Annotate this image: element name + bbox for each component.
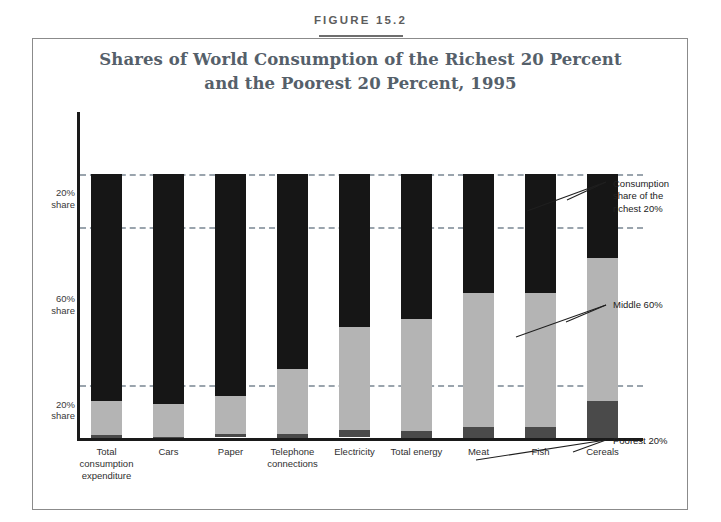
- bar-segment-middle: [587, 258, 618, 401]
- y-axis-label-value: 60%: [56, 293, 75, 304]
- x-axis-label-8: Cereals: [555, 446, 651, 458]
- callout-middle-share: Middle 60%: [613, 299, 693, 311]
- bar-telephone-connections: [277, 112, 308, 438]
- bar-segment-poorest: [215, 434, 246, 437]
- bar-segment-middle: [153, 404, 184, 438]
- bar-total-consumption-expenditure: [91, 112, 122, 438]
- page-title: Shares of World Consumption of the Riche…: [0, 48, 721, 96]
- bar-segment-poorest: [277, 434, 308, 438]
- bar-segment-richest: [525, 174, 556, 293]
- bar-segment-poorest: [401, 431, 432, 438]
- x-axis-label-line: Paper: [218, 446, 243, 457]
- y-axis-label-word: share: [51, 305, 75, 316]
- bar-total-energy: [401, 112, 432, 438]
- bar-segment-poorest: [587, 401, 618, 438]
- bar-segment-middle: [463, 293, 494, 428]
- bar-segment-middle: [215, 396, 246, 434]
- bar-segment-middle: [277, 369, 308, 434]
- figure-number: FIGURE 15.2: [0, 14, 721, 26]
- bar-cars: [153, 112, 184, 438]
- bar-segment-richest: [91, 174, 122, 401]
- y-axis-label-2: 20%share: [35, 399, 75, 423]
- x-axis-label-line: Meat: [468, 446, 489, 457]
- bar-segment-richest: [339, 174, 370, 327]
- bar-segment-middle: [525, 293, 556, 428]
- x-axis-label-line: connections: [267, 458, 318, 469]
- bar-segment-richest: [463, 174, 494, 293]
- bar-segment-poorest: [153, 437, 184, 438]
- title-divider-rule: [319, 35, 403, 37]
- x-axis-label-line: consumption: [80, 458, 134, 469]
- title-line-2: and the Poorest 20 Percent, 1995: [0, 72, 721, 96]
- chart-plot-area: 20%share60%share20%share Totalconsumptio…: [43, 112, 643, 472]
- bar-segment-poorest: [339, 430, 370, 437]
- y-axis-label-1: 60%share: [35, 293, 75, 317]
- bar-segment-richest: [401, 174, 432, 319]
- callout-poorest-share: Poorest 20%: [613, 435, 693, 447]
- title-line-1: Shares of World Consumption of the Riche…: [0, 48, 721, 72]
- bar-segment-poorest: [525, 427, 556, 438]
- bar-segment-richest: [277, 174, 308, 369]
- y-axis-label-value: 20%: [56, 399, 75, 410]
- x-axis-label-line: expenditure: [82, 470, 132, 481]
- bar-segment-richest: [215, 174, 246, 396]
- y-axis-label-value: 20%: [56, 187, 75, 198]
- x-axis-label-line: Fish: [532, 446, 550, 457]
- x-axis-label-line: Cars: [158, 446, 178, 457]
- bar-segment-middle: [401, 319, 432, 431]
- y-axis-line: [77, 112, 80, 440]
- callout-richest-share: Consumption share of the richest 20%: [613, 178, 693, 215]
- x-axis-label-line: Total: [96, 446, 116, 457]
- bar-segment-middle: [91, 401, 122, 435]
- bar-segment-poorest: [463, 427, 494, 438]
- y-axis-label-word: share: [51, 410, 75, 421]
- y-axis-label-word: share: [51, 199, 75, 210]
- bar-segment-richest: [153, 174, 184, 404]
- bar-meat: [463, 112, 494, 438]
- bar-fish: [525, 112, 556, 438]
- bar-electricity: [339, 112, 370, 438]
- x-axis-line: [77, 438, 643, 441]
- bar-cereals: [587, 112, 618, 438]
- x-axis-label-line: Cereals: [586, 446, 619, 457]
- bar-segment-poorest: [91, 435, 122, 438]
- y-axis-label-0: 20%share: [35, 187, 75, 211]
- bar-paper: [215, 112, 246, 438]
- bar-segment-middle: [339, 327, 370, 430]
